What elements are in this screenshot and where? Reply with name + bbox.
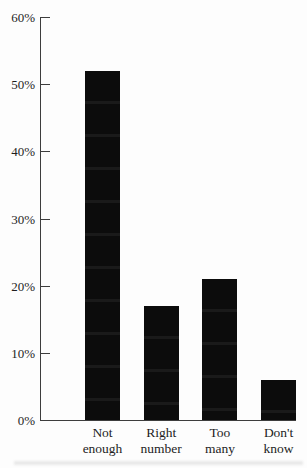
y-tick: [41, 84, 50, 85]
y-tick: [41, 151, 50, 152]
bar-don-t-know: [261, 380, 296, 420]
y-tick-label: 30%: [5, 213, 35, 226]
x-tick-label: Notenough: [75, 425, 131, 457]
x-tick-label: Toomany: [192, 425, 248, 457]
bar-not-enough: [85, 71, 120, 420]
y-tick-label: 50%: [5, 78, 35, 91]
y-tick: [41, 17, 50, 18]
bar-too-many: [202, 279, 237, 420]
y-tick: [41, 286, 50, 287]
y-tick: [41, 353, 50, 354]
y-tick-label: 60%: [5, 11, 35, 24]
y-tick-label: 10%: [5, 347, 35, 360]
x-axis-line: [40, 420, 296, 421]
y-tick: [41, 219, 50, 220]
bar-right-number: [144, 306, 179, 420]
bar-chart-figure: 0%10%20%30%40%50%60% NotenoughRightnumbe…: [0, 0, 307, 468]
x-tick-label: Don'tknow: [251, 425, 307, 457]
y-tick-label: 20%: [5, 280, 35, 293]
y-tick-label: 40%: [5, 145, 35, 158]
y-tick-label: 0%: [5, 414, 35, 427]
scan-artifact: [14, 461, 303, 465]
x-tick-label: Rightnumber: [133, 425, 189, 457]
